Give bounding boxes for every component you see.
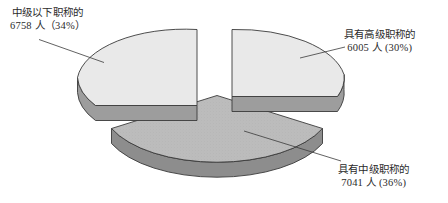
pie-slice-senior[interactable] [232,29,344,111]
pie-label-senior: 具有高级职称的 6005 人 (30%) [344,28,415,54]
pie-slice-senior-top [232,29,344,96]
pie-label-mid: 具有中级职称的 7041 人 (36%) [338,163,409,189]
pie-label-senior-line2: 6005 人 (30%) [344,41,415,54]
leader-line-below-mid [39,40,104,63]
pie-label-below-mid-line2: 6758 人（34%） [10,19,85,32]
pie-slice-below-mid[interactable] [78,29,198,120]
pie-label-mid-line1: 具有中级职称的 [338,163,409,176]
pie-slice-below-mid-top [78,29,198,105]
pie-label-below-mid-line1: 中级以下职称的 [10,6,85,19]
pie-chart-figure: 中级以下职称的 6758 人（34%） 具有高级职称的 6005 人 (30%)… [0,0,448,203]
pie-label-senior-line1: 具有高级职称的 [344,28,415,41]
pie-label-mid-line2: 7041 人 (36%) [338,176,409,189]
pie-label-below-mid: 中级以下职称的 6758 人（34%） [10,6,85,32]
